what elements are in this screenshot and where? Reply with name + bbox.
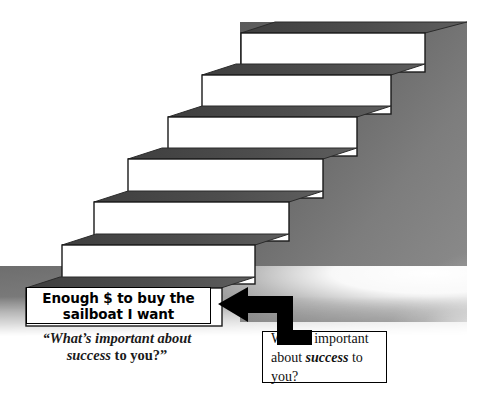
- step-label-text: Enough $ to buy the sailboat I want: [42, 290, 194, 322]
- caption-text: “What’s important about success to you?”: [18, 330, 216, 364]
- diagram-canvas: Enough $ to buy the sailboat I want “Wha…: [0, 0, 484, 403]
- step-label-box: Enough $ to buy the sailboat I want: [26, 287, 211, 324]
- question-line-2-before: about: [271, 350, 306, 365]
- question-emphasis: success: [306, 350, 349, 365]
- step-label-line-1: Enough $ to buy the: [42, 290, 194, 306]
- caption-line-2-rest: to you?: [111, 347, 160, 363]
- caption-emphasis: success: [67, 347, 111, 363]
- caption-close-quote: ”: [160, 347, 167, 363]
- bent-left-arrow-icon: [215, 283, 325, 345]
- caption-open-quote: “: [43, 330, 50, 346]
- caption-line-1: What’s important about: [50, 330, 192, 346]
- step-label-line-2: sailboat I want: [63, 306, 174, 322]
